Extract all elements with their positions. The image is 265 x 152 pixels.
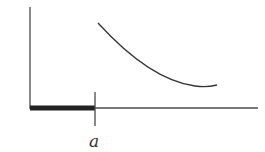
decreasing-curve <box>98 23 217 87</box>
diagram-canvas: a <box>0 0 265 152</box>
tick-label-a: a <box>89 131 99 151</box>
